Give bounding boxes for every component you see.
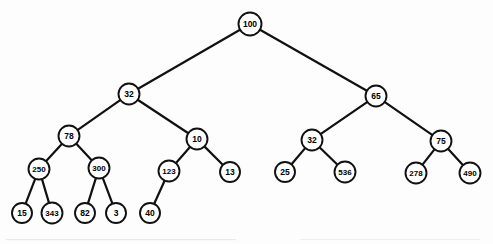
tree-edge — [45, 143, 63, 163]
node-label: 300 — [92, 164, 106, 173]
tree-node[interactable]: 82 — [75, 203, 95, 223]
tree-node[interactable]: 490 — [460, 163, 481, 184]
tree-node[interactable]: 278 — [406, 163, 427, 184]
tree-edge — [102, 176, 113, 205]
node-label: 65 — [371, 91, 381, 101]
scan-artifact-line — [6, 239, 236, 240]
node-label: 32 — [124, 89, 134, 99]
node-label: 278 — [409, 169, 423, 178]
node-label: 25 — [280, 167, 290, 177]
tree-edge — [383, 101, 433, 136]
node-layer: 1003265781032752503001231325536278490153… — [12, 13, 481, 224]
node-label: 10 — [192, 134, 202, 144]
tree-edge — [203, 145, 224, 166]
tree-node[interactable]: 65 — [366, 86, 387, 107]
tree-node[interactable]: 343 — [42, 203, 63, 224]
tree-edge — [290, 147, 306, 166]
tree-edge — [42, 178, 50, 205]
node-label: 78 — [64, 131, 74, 141]
tree-node[interactable]: 15 — [12, 203, 32, 223]
node-label: 32 — [307, 135, 317, 145]
tree-edge — [75, 143, 93, 162]
binary-tree-figure: 1003265781032752503001231325536278490153… — [0, 0, 493, 244]
tree-edge — [175, 146, 191, 164]
tree-node[interactable]: 13 — [220, 162, 240, 182]
tree-edge — [422, 148, 436, 166]
tree-node[interactable]: 250 — [29, 159, 50, 180]
tree-node[interactable]: 123 — [159, 161, 180, 182]
tree-node[interactable]: 40 — [140, 203, 160, 223]
node-label: 13 — [225, 167, 235, 177]
scan-artifact-line-right — [300, 239, 480, 240]
node-label: 3 — [114, 208, 119, 218]
tree-node[interactable]: 100 — [239, 13, 262, 36]
node-label: 250 — [32, 165, 46, 174]
node-label: 536 — [338, 168, 352, 177]
node-label: 75 — [436, 136, 446, 146]
tree-node[interactable]: 78 — [59, 126, 80, 147]
tree-edge — [447, 148, 464, 167]
node-label: 15 — [17, 208, 27, 218]
tree-node[interactable]: 536 — [335, 162, 356, 183]
tree-node[interactable]: 25 — [275, 162, 295, 182]
tree-node[interactable]: 3 — [106, 203, 126, 223]
tree-edge — [259, 29, 369, 92]
tree-node[interactable]: 32 — [119, 84, 140, 105]
node-label: 123 — [162, 167, 176, 176]
tree-node[interactable]: 75 — [431, 131, 452, 152]
tree-node[interactable]: 32 — [302, 130, 323, 151]
tree-edge — [137, 29, 242, 89]
tree-edge — [318, 146, 338, 165]
tree-edge — [25, 177, 36, 205]
node-label: 40 — [145, 208, 155, 218]
node-label: 490 — [463, 169, 477, 178]
tree-edge — [154, 179, 166, 205]
node-label: 343 — [45, 209, 59, 218]
tree-edge — [76, 99, 121, 131]
node-label: 100 — [243, 19, 257, 29]
tree-edge — [137, 99, 190, 134]
tree-canvas: 1003265781032752503001231325536278490153… — [0, 0, 493, 244]
tree-node[interactable]: 300 — [89, 158, 110, 179]
tree-edge — [319, 101, 368, 135]
tree-edge — [88, 177, 97, 205]
tree-node[interactable]: 10 — [187, 129, 208, 150]
edge-layer — [25, 29, 464, 205]
node-label: 82 — [80, 208, 90, 218]
